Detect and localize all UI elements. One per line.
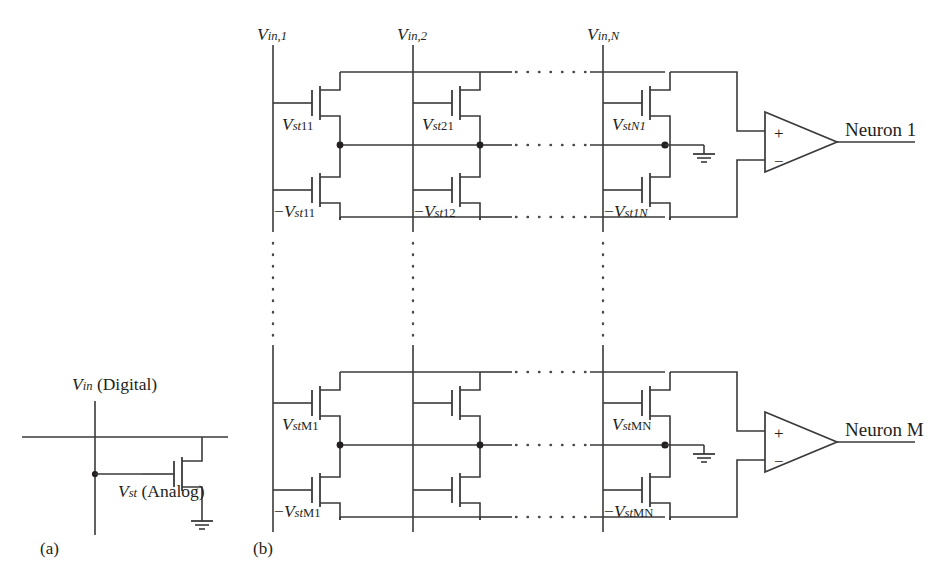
panel-b-caption: (b) [253,540,273,557]
weight-label-neg-stMN: −VstMN [604,503,653,521]
panel-a-input-label: Vin (Digital) [72,376,157,394]
weight-label-neg-st1N: −Vst1N [604,203,648,221]
weight-label-st21: Vst21 [422,116,454,134]
weight-label-st11: Vst11 [282,116,313,134]
horizontal-ellipsis [516,372,588,517]
panel-a-storage-label: Vst (Analog) [118,483,205,501]
opamp-minus-input-rowM: − [774,453,784,470]
ground-icon [191,512,213,529]
weight-label-stMN: VstMN [612,416,651,434]
junction-dot [337,442,344,449]
figure-canvas: Vin (Digital) Vst (Analog) (a) (b) Vin,1… [0,0,938,586]
junction-dot [477,442,484,449]
opamp-plus-input-rowM: + [774,425,784,442]
opamp-plus-input-row1: + [774,125,784,142]
row-M-circuit [273,345,915,532]
neuron-output-label-1: Neuron 1 [845,120,916,139]
weight-label-neg-stM1: −VstM1 [274,503,320,521]
opamp-minus-input-row1: − [774,153,784,170]
column-label-vin1: Vin,1 [257,26,287,44]
mosfet-icon [420,460,480,520]
panel-a-circuit [22,401,228,535]
row-1-circuit [273,45,915,232]
column-label-vin2: Vin,2 [397,26,427,44]
panel-a-caption: (a) [40,540,59,557]
ground-icon [693,145,715,162]
neuron-output-label-M: Neuron M [845,420,924,439]
ground-icon [693,445,715,462]
horizontal-ellipsis [516,72,588,217]
junction-dot [477,142,484,149]
weight-label-stM1: VstM1 [282,416,319,434]
weight-label-neg-st11: −Vst11 [274,203,315,221]
weight-label-neg-st12: −Vst12 [414,203,456,221]
junction-dot [337,142,344,149]
column-label-vinN: Vin,N [587,26,619,44]
mosfet-icon [420,373,480,433]
weight-label-stN1: VstN1 [612,116,646,134]
vertical-ellipsis [273,243,603,338]
